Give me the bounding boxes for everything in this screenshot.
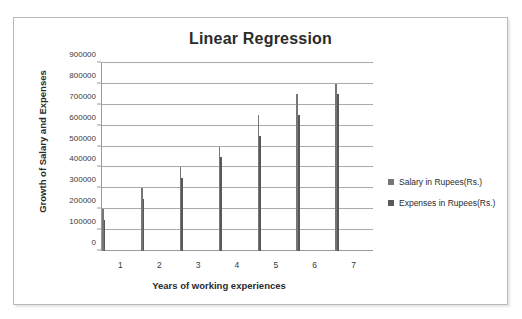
y-axis-tick-label: 200000 [69, 196, 96, 205]
bar-expenses[interactable] [143, 199, 145, 251]
x-axis-tick-label: 7 [334, 260, 373, 270]
legend-label: Salary in Rupees(Rs.) [399, 177, 482, 187]
x-axis-tick-label: 6 [295, 260, 334, 270]
x-axis-tick-label: 1 [101, 260, 140, 270]
chart-legend: Salary in Rupees(Rs.)Expenses in Rupees(… [388, 177, 508, 219]
x-axis-tick-label: 4 [218, 260, 257, 270]
y-axis-tick-label: 500000 [69, 133, 96, 142]
x-axis-tick-label: 3 [179, 260, 218, 270]
x-axis-title: Years of working experiences [74, 280, 364, 291]
bar-expenses[interactable] [181, 178, 183, 251]
x-axis-tick-label: 5 [256, 260, 295, 270]
bar-group: 7 [334, 63, 373, 251]
bar-group: 5 [256, 63, 295, 251]
bar-expenses[interactable] [298, 115, 300, 251]
chart-frame: Linear Regression Growth of Salary and E… [13, 17, 508, 305]
bar-group: 1 [101, 63, 140, 251]
legend-swatch-icon [388, 179, 394, 185]
y-axis-title: Growth of Salary and Expenses [37, 52, 48, 232]
plot-inner: 0100000200000300000400000500000600000700… [101, 63, 373, 251]
y-axis-tick-label: 800000 [69, 70, 96, 79]
bar-expenses[interactable] [337, 94, 339, 251]
chart-title: Linear Regression [14, 30, 507, 48]
plot-area: 0100000200000300000400000500000600000700… [101, 63, 373, 251]
y-axis-tick-label: 300000 [69, 175, 96, 184]
bar-group: 3 [179, 63, 218, 251]
y-axis-tick-label: 900000 [69, 50, 96, 59]
legend-item[interactable]: Expenses in Rupees(Rs.) [388, 198, 508, 208]
bar-group: 6 [295, 63, 334, 251]
y-axis-tick-label: 600000 [69, 112, 96, 121]
bar-expenses[interactable] [259, 136, 261, 251]
legend-item[interactable]: Salary in Rupees(Rs.) [388, 177, 508, 187]
y-axis-tick-label: 400000 [69, 154, 96, 163]
x-axis-tick-label: 2 [140, 260, 179, 270]
bar-expenses[interactable] [220, 157, 222, 251]
legend-swatch-icon [388, 200, 394, 206]
bar-group: 2 [140, 63, 179, 251]
legend-label: Expenses in Rupees(Rs.) [399, 198, 495, 208]
y-axis-tick-label: 700000 [69, 91, 96, 100]
y-axis-tick-label: 100000 [69, 217, 96, 226]
bar-expenses[interactable] [104, 220, 106, 251]
bar-group: 4 [218, 63, 257, 251]
y-axis-tick-label: 0 [92, 238, 96, 247]
